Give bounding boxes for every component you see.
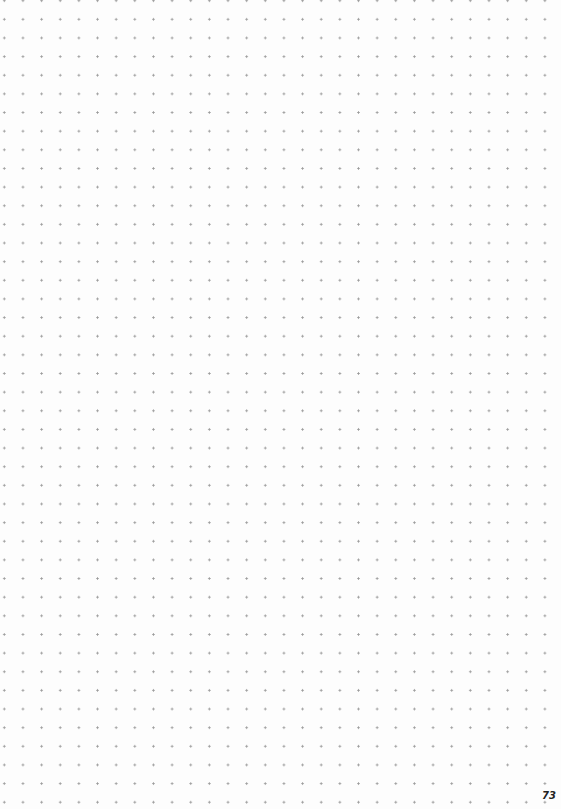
page-number: 73 (542, 790, 556, 801)
left-margin (0, 0, 3, 809)
dot-grid-page: 73 (0, 0, 561, 809)
